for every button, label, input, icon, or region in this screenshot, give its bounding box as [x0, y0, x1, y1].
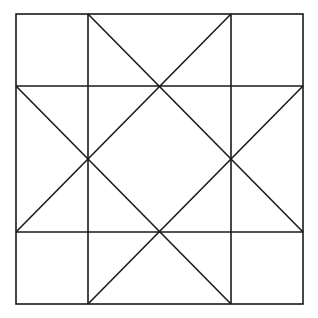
star-grid-diagram	[0, 0, 318, 318]
diagonal-line	[16, 86, 231, 304]
diagonal-line	[88, 86, 303, 304]
outer-square	[16, 14, 303, 304]
diagonal-line	[88, 14, 303, 232]
diagonal-line	[16, 14, 231, 232]
